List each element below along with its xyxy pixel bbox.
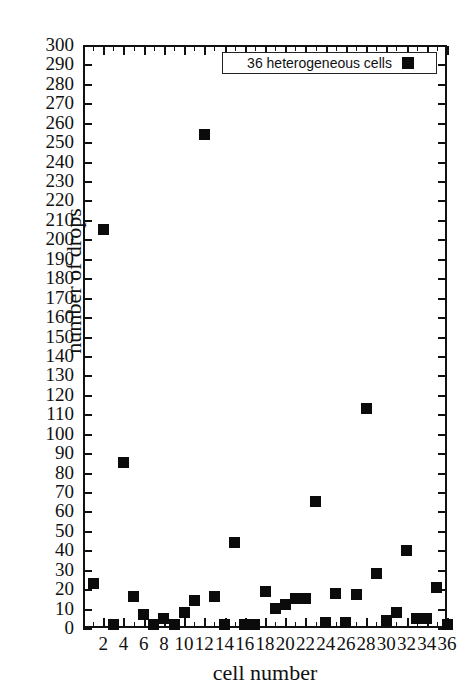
data-point xyxy=(361,403,372,414)
legend: 36 heterogeneous cells xyxy=(222,52,437,74)
scatter-chart-figure: number of drops cell number 010203040506… xyxy=(0,0,475,698)
x-tick-mark-top xyxy=(336,46,337,51)
y-tick-mark-right xyxy=(438,550,447,552)
y-tick-label: 40 xyxy=(22,540,74,559)
y-tick-mark-right xyxy=(438,200,447,202)
x-tick-mark-top xyxy=(204,46,206,55)
y-tick-mark xyxy=(83,84,92,86)
data-point xyxy=(249,619,260,630)
x-tick-mark-top xyxy=(437,46,438,51)
y-tick-label: 300 xyxy=(22,35,74,54)
y-tick-mark-right xyxy=(438,103,447,105)
y-tick-label: 250 xyxy=(22,132,74,151)
y-tick-mark xyxy=(83,162,92,164)
data-point xyxy=(320,617,331,628)
legend-marker-swatch xyxy=(402,57,414,69)
data-point xyxy=(88,578,99,589)
y-tick-mark xyxy=(83,531,92,533)
y-tick-mark xyxy=(83,375,92,377)
x-tick-minor-mark xyxy=(134,622,135,627)
x-tick-mark-top xyxy=(235,46,236,51)
x-tick-mark-top xyxy=(214,46,215,51)
x-tick-mark xyxy=(265,618,267,627)
x-tick-label: 36 xyxy=(432,634,462,653)
y-tick-mark xyxy=(83,239,92,241)
data-point xyxy=(340,617,351,628)
y-tick-mark-right xyxy=(438,45,447,47)
y-tick-mark-right xyxy=(438,278,447,280)
y-tick-mark-right xyxy=(438,414,447,416)
y-tick-mark-right xyxy=(438,181,447,183)
y-tick-mark xyxy=(83,434,92,436)
y-tick-mark-right xyxy=(438,356,447,358)
y-tick-mark-right xyxy=(438,473,447,475)
y-tick-label: 210 xyxy=(22,210,74,229)
y-tick-mark-right xyxy=(438,395,447,397)
x-tick-mark-top xyxy=(194,46,195,51)
y-tick-mark xyxy=(83,511,92,513)
y-tick-label: 110 xyxy=(22,404,74,423)
data-point xyxy=(401,545,412,556)
y-tick-label: 50 xyxy=(22,521,74,540)
y-tick-mark-right xyxy=(438,142,447,144)
y-tick-label: 150 xyxy=(22,327,74,346)
x-tick-mark xyxy=(123,618,125,627)
data-point xyxy=(300,593,311,604)
y-tick-mark-right xyxy=(438,375,447,377)
y-tick-mark-right xyxy=(438,259,447,261)
data-point xyxy=(128,591,139,602)
x-tick-minor-mark xyxy=(235,622,236,627)
y-tick-label: 220 xyxy=(22,190,74,209)
x-tick-minor-mark xyxy=(295,622,296,627)
y-tick-mark xyxy=(83,45,92,47)
x-tick-mark xyxy=(204,618,206,627)
data-point xyxy=(391,607,402,618)
data-point xyxy=(371,568,382,579)
x-tick-mark-top xyxy=(275,46,276,51)
y-tick-mark xyxy=(83,123,92,125)
x-tick-mark-top xyxy=(174,46,175,51)
y-tick-label: 60 xyxy=(22,501,74,520)
data-point xyxy=(199,129,210,140)
x-tick-mark-top xyxy=(316,46,317,51)
data-point xyxy=(330,588,341,599)
x-tick-mark xyxy=(407,618,409,627)
y-tick-mark-right xyxy=(438,609,447,611)
x-tick-mark-top xyxy=(447,46,449,55)
y-tick-label: 10 xyxy=(22,599,74,618)
y-tick-label: 80 xyxy=(22,463,74,482)
data-point xyxy=(189,595,200,606)
y-tick-label: 130 xyxy=(22,365,74,384)
y-tick-label: 160 xyxy=(22,307,74,326)
y-tick-label: 170 xyxy=(22,288,74,307)
y-tick-label: 90 xyxy=(22,443,74,462)
data-point xyxy=(431,582,442,593)
y-tick-mark-right xyxy=(438,531,447,533)
y-tick-mark xyxy=(83,278,92,280)
x-tick-mark-top xyxy=(255,46,256,51)
x-tick-mark-top xyxy=(103,46,105,55)
y-tick-mark xyxy=(83,492,92,494)
y-tick-mark-right xyxy=(438,239,447,241)
y-tick-mark-right xyxy=(438,123,447,125)
data-point xyxy=(351,589,362,600)
y-tick-label: 140 xyxy=(22,346,74,365)
y-tick-mark xyxy=(83,473,92,475)
x-tick-minor-mark xyxy=(356,622,357,627)
y-tick-mark-right xyxy=(438,317,447,319)
data-point xyxy=(169,619,180,630)
y-tick-label: 20 xyxy=(22,579,74,598)
x-tick-mark-top xyxy=(154,46,155,51)
y-tick-mark-right xyxy=(438,298,447,300)
legend-label: 36 heterogeneous cells xyxy=(223,55,402,71)
data-point xyxy=(118,457,129,468)
y-tick-mark xyxy=(83,200,92,202)
y-tick-label: 230 xyxy=(22,171,74,190)
y-tick-label: 270 xyxy=(22,93,74,112)
data-point xyxy=(98,224,109,235)
y-tick-label: 200 xyxy=(22,229,74,248)
x-tick-mark-top xyxy=(123,46,125,55)
x-tick-minor-mark xyxy=(316,622,317,627)
x-tick-minor-mark xyxy=(275,622,276,627)
x-tick-mark-top xyxy=(134,46,135,51)
